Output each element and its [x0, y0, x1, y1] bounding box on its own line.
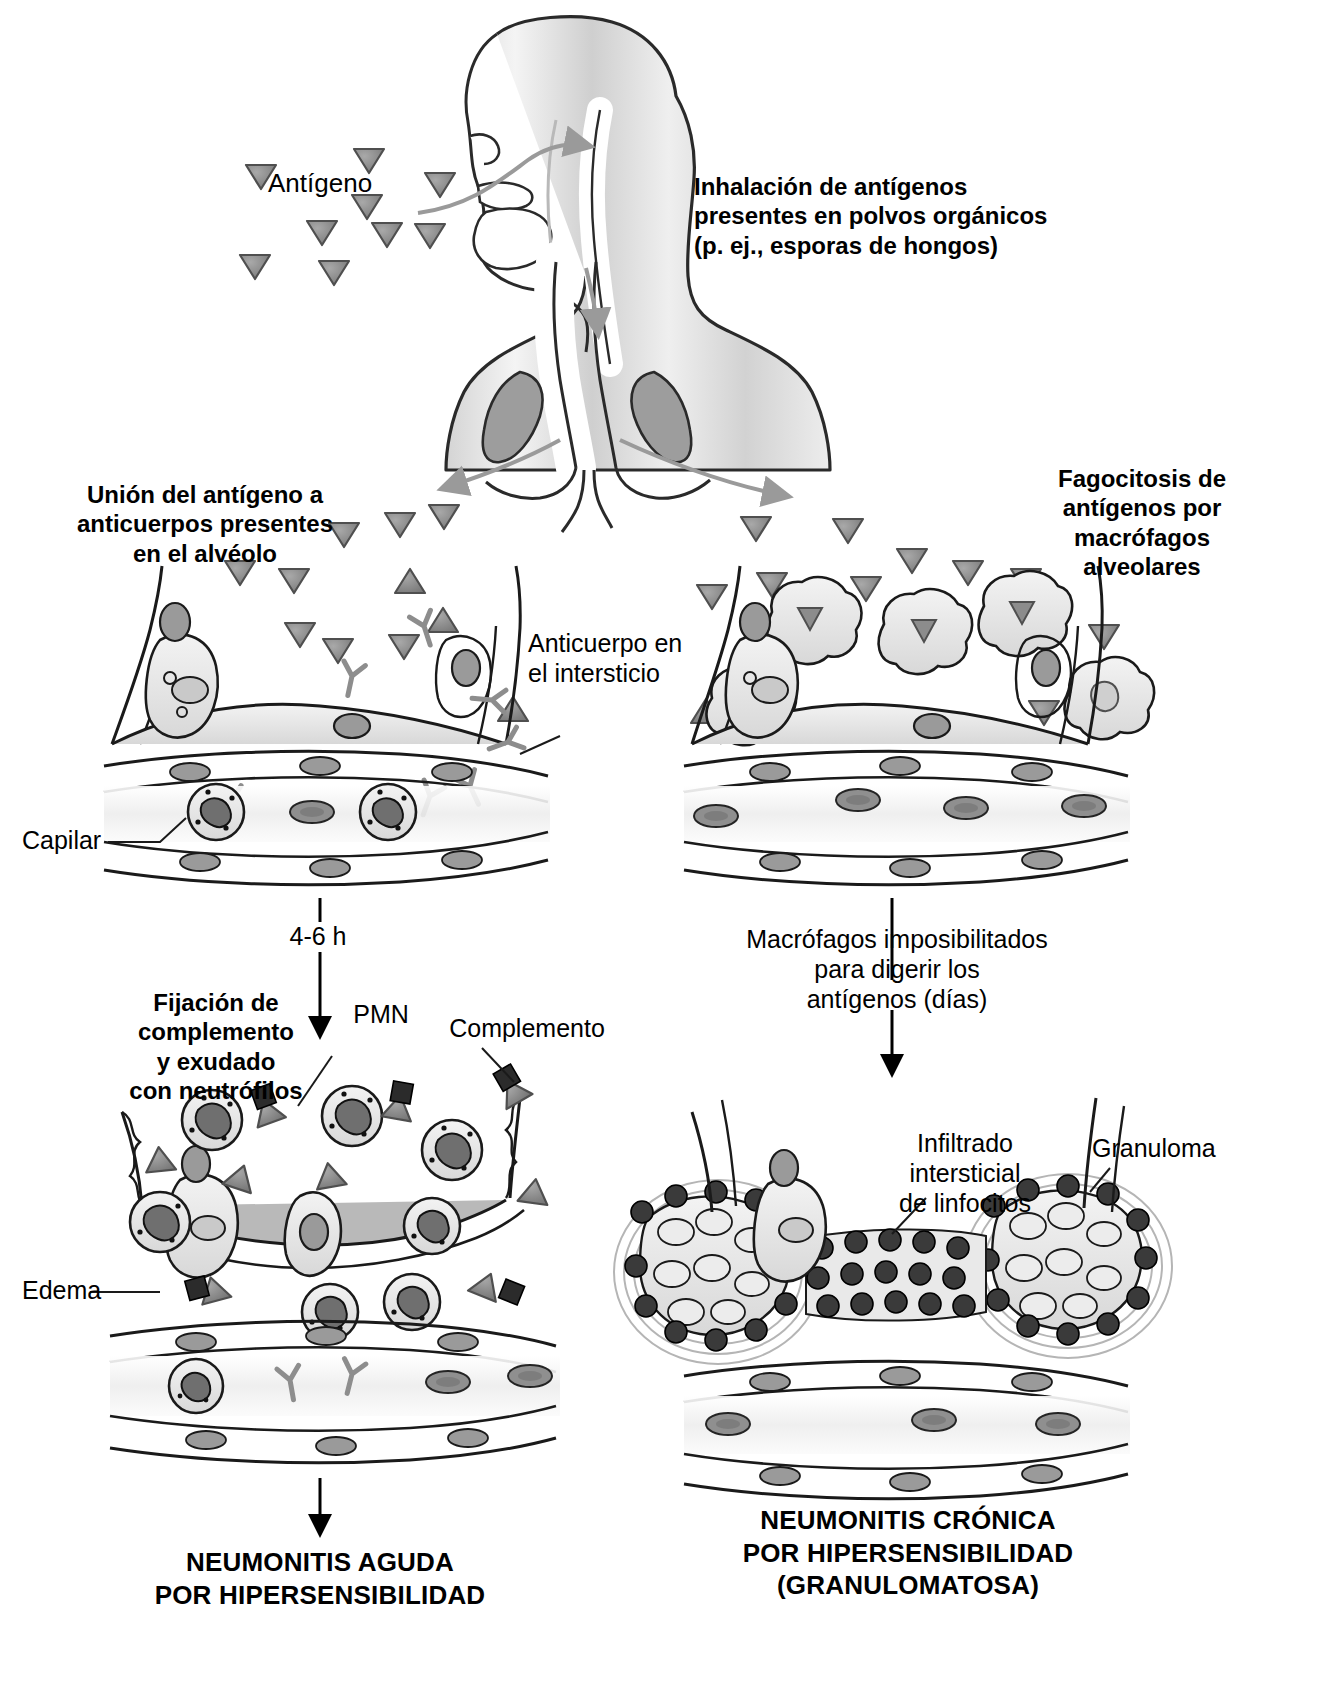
granuloma-label: Granuloma — [1092, 1134, 1216, 1164]
capillary-left — [104, 751, 550, 884]
complement-label: Complemento — [432, 1014, 622, 1044]
antigen-label: Antígeno — [268, 168, 372, 199]
chronic-outcome-caption: NEUMONITIS CRÓNICA POR HIPERSENSIBILIDAD… — [708, 1504, 1108, 1602]
time-4-6h-label: 4-6 h — [258, 922, 378, 952]
right-branch-heading: Fagocitosis de antígenos por macrófagos … — [1012, 464, 1272, 581]
inhalation-caption: Inhalación de antígenos presentes en pol… — [694, 172, 1047, 260]
left-branch-heading: Unión del antígeno a anticuerpos present… — [60, 480, 350, 568]
macrophage-cell-icon — [1065, 657, 1155, 739]
macrophages-unable-label: Macrófagos imposibilitados para digerir … — [742, 924, 1052, 1014]
pmn-neutrophil-icon — [360, 784, 416, 840]
acute-alveolus-lower — [90, 1048, 560, 1532]
lymphocytic-infiltrate-label: Infiltrado intersticial de linfocitos — [860, 1128, 1070, 1218]
antibody-interstitium-label: Anticuerpo en el intersticio — [528, 628, 682, 688]
edema-label: Edema — [22, 1276, 101, 1306]
capillary-chronic — [684, 1361, 1130, 1498]
pmn-label: PMN — [336, 1000, 426, 1030]
acute-outcome-caption: NEUMONITIS AGUDA POR HIPERSENSIBILIDAD — [130, 1546, 510, 1611]
pmn-neutrophil-icon — [130, 1192, 190, 1252]
capillary-acute — [110, 1321, 560, 1462]
capillary-label: Capilar — [22, 826, 101, 856]
pmn-neutrophil-icon — [188, 784, 244, 840]
diagram-artwork — [0, 0, 1327, 1704]
macrophage-cell-icon — [879, 589, 972, 674]
figure-canvas: Antígeno Inhalación de antígenos present… — [0, 0, 1327, 1704]
pmn-neutrophil-icon — [169, 1359, 223, 1413]
lymphocyte-band — [806, 1229, 986, 1321]
capillary-right — [684, 751, 1130, 884]
pmn-neutrophil-icon — [422, 1120, 482, 1180]
complement-fixation-heading: Fijación de complemento y exudado con ne… — [96, 988, 336, 1105]
pmn-neutrophil-icon — [404, 1198, 460, 1254]
